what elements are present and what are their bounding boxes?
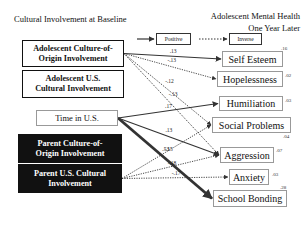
predictor-label: Adolescent Culture-of- [33, 44, 113, 54]
path-coefficient: -.15 [164, 146, 173, 152]
predictor-label: Parent Culture-of- [36, 139, 105, 149]
predictor-parent-us-cultural: Parent U.S. CulturalInvolvement [18, 164, 122, 193]
r2-social-problems: .04 [283, 134, 289, 139]
predictor-label: Involvement [34, 179, 106, 189]
path-adol_coo-to-social_problems [124, 54, 211, 126]
predictor-label: Origin Involvement [36, 149, 105, 159]
predictor-time-in-us: Time in U.S. [36, 110, 118, 126]
legend-inverse: Inverse [229, 33, 262, 45]
outcome-school-bonding: School Bonding [213, 190, 287, 207]
predictor-label: Parent U.S. Cultural [34, 169, 106, 179]
predictor-label: Cultural Involvement [35, 84, 111, 94]
predictor-adolescent-us-cultural: Adolescent U.S.Cultural Involvement [22, 70, 124, 98]
outcome-social-problems: Social Problems [212, 117, 291, 133]
path-coefficient: -.18 [168, 160, 177, 166]
path-coefficient: -.12 [165, 78, 174, 84]
predictor-label: Adolescent U.S. [35, 74, 111, 84]
path-coefficient: -.13 [167, 57, 176, 63]
predictor-adolescent-culture-of-origin: Adolescent Culture-of-Origin Involvement [22, 40, 124, 67]
path-coefficient: .13 [170, 48, 177, 54]
r2-aggression: .07 [276, 148, 282, 153]
r2-humiliation: .03 [285, 98, 291, 103]
outcome-aggression: Aggression [220, 147, 274, 163]
path-coefficient: .13 [165, 127, 172, 133]
r2-anxiety: .03 [272, 172, 278, 177]
outcome-hopelessness: Hopelessness [217, 71, 283, 87]
path-par_us-to-anxiety [122, 177, 228, 179]
predictor-label: Origin Involvement [33, 54, 113, 64]
path-par_us-to-aggression [122, 155, 219, 179]
legend-positive: Positive [156, 33, 191, 45]
predictor-parent-culture-of-origin: Parent Culture-of-Origin Involvement [18, 134, 122, 163]
path-coefficient: -.17 [172, 170, 181, 176]
r2-self-esteem: .16 [281, 46, 287, 51]
outcome-humiliation: Humiliation [219, 96, 283, 111]
predictor-label: Time in U.S. [55, 113, 99, 123]
path-coefficient: -.13 [169, 91, 178, 97]
outcome-self-esteem: Self Esteem [222, 51, 283, 67]
r2-school-bonding: .28 [280, 185, 286, 190]
outcome-anxiety: Anxiety [229, 169, 269, 185]
path-coefficient: .17 [165, 103, 172, 109]
r2-hopelessness: .02 [285, 73, 291, 78]
